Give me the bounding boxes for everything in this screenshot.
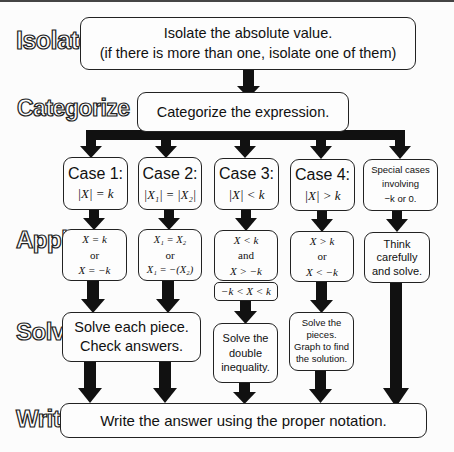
case-1-apply-box: X = k or X = −k xyxy=(62,229,127,281)
special-apply-3: and solve. xyxy=(372,265,422,278)
stage-label-categorize: Categorize xyxy=(17,95,130,122)
special-cases-box: Special cases involving −k or 0. xyxy=(363,159,438,211)
case-2-condition: |X₁| = |X₂| xyxy=(144,188,196,202)
case-3-apply-3: X > −k xyxy=(230,265,262,278)
case-3-title: Case 3: xyxy=(219,165,274,183)
case-2-box: Case 2: |X₁| = |X₂| xyxy=(138,157,202,210)
case-3-solve-1: Solve the xyxy=(223,332,269,345)
case-3-box: Case 3: |X| < k xyxy=(214,158,279,210)
case-3-combined-box: −k < X < k xyxy=(214,282,278,301)
categorize-text: Categorize the expression. xyxy=(157,104,330,121)
case-2-apply-1: X₁ = X₂ xyxy=(154,234,186,246)
case-4-apply-1: X > k xyxy=(310,235,335,248)
case-4-solve-box: Solve the pieces. Graph to find the solu… xyxy=(289,312,354,371)
special-apply-2: carefully xyxy=(377,251,418,264)
solve-shared-box: Solve each piece. Check answers. xyxy=(62,312,201,362)
case-3-combined: −k < X < k xyxy=(221,285,271,298)
case-1-condition: |X| = k xyxy=(77,187,113,202)
isolate-line-2: (if there is more than one, isolate one … xyxy=(100,45,397,62)
case-3-condition: |X| < k xyxy=(228,188,264,203)
case-4-apply-2: or xyxy=(317,250,326,263)
write-box: Write the answer using the proper notati… xyxy=(60,403,427,438)
case-3-apply-2: and xyxy=(238,249,254,262)
case-4-box: Case 4: |X| > k xyxy=(290,159,355,211)
special-apply-box: Think carefully and solve. xyxy=(364,232,430,283)
case-2-apply-2: or xyxy=(165,249,174,262)
case-4-condition: |X| > k xyxy=(304,189,340,204)
case-2-apply-3: X₁ = −(X₂) xyxy=(147,264,194,276)
special-line-3: −k or 0. xyxy=(385,194,417,205)
case-3-apply-box: X < k and X > −k xyxy=(214,230,278,281)
case-3-solve-3: inequality. xyxy=(221,361,270,374)
case-1-apply-2: or xyxy=(90,249,99,262)
categorize-box: Categorize the expression. xyxy=(137,92,349,132)
isolate-box: Isolate the absolute value. (if there is… xyxy=(80,17,416,70)
case-4-title: Case 4: xyxy=(295,166,350,184)
case-4-apply-3: X < −k xyxy=(306,266,338,279)
write-text: Write the answer using the proper notati… xyxy=(100,412,387,429)
case-3-apply-1: X < k xyxy=(234,234,259,247)
case-2-apply-box: X₁ = X₂ or X₁ = −(X₂) xyxy=(138,229,202,281)
solve-shared-line-2: Check answers. xyxy=(80,338,183,355)
case-1-apply-3: X = −k xyxy=(79,264,111,277)
case-1-apply-1: X = k xyxy=(82,233,107,246)
special-apply-1: Think xyxy=(384,238,411,251)
special-line-1: Special cases xyxy=(371,165,430,176)
special-line-2: involving xyxy=(382,179,419,190)
case-3-solve-box: Solve the double inequality. xyxy=(213,323,278,383)
case-4-solve-3: Graph to find xyxy=(294,342,349,353)
case-1-box: Case 1: |X| = k xyxy=(63,157,128,210)
case-3-solve-2: double xyxy=(229,347,262,360)
case-4-solve-2: pieces. xyxy=(306,330,336,341)
case-4-solve-4: the solution. xyxy=(296,354,347,365)
case-2-title: Case 2: xyxy=(142,165,197,183)
case-1-title: Case 1: xyxy=(68,165,123,183)
solve-shared-line-1: Solve each piece. xyxy=(74,319,188,336)
case-4-solve-1: Solve the xyxy=(302,318,342,329)
isolate-line-1: Isolate the absolute value. xyxy=(164,25,332,42)
case-4-apply-box: X > k or X < −k xyxy=(290,231,354,282)
